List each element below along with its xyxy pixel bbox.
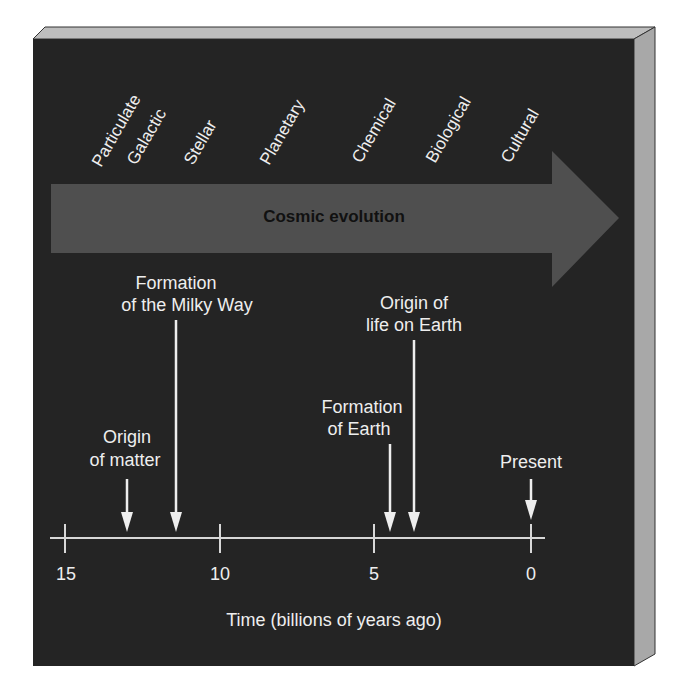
event-label-line2: of the Milky Way xyxy=(121,295,252,315)
axis-tick-label: 10 xyxy=(210,564,230,584)
event-label-line1: Present xyxy=(500,452,562,472)
event-label-line1: Origin xyxy=(103,427,151,447)
panel-top-bevel xyxy=(33,27,655,39)
event-label-line1: Formation xyxy=(321,397,402,417)
axis-tick-label: 0 xyxy=(526,564,536,584)
event-label-line1: Origin of xyxy=(380,293,449,313)
axis-tick-label: 15 xyxy=(56,564,76,584)
event-label-line2: of Earth xyxy=(327,419,390,439)
panel-side-bevel xyxy=(634,27,655,666)
axis-title: Time (billions of years ago) xyxy=(226,610,441,630)
event-label-line2: of matter xyxy=(89,450,160,470)
cosmic-evolution-diagram: Cosmic evolution Particulate Galactic St… xyxy=(0,0,676,696)
event-label-line2: life on Earth xyxy=(366,315,462,335)
axis-tick-label: 5 xyxy=(369,564,379,584)
arrow-label: Cosmic evolution xyxy=(263,207,405,226)
event-label-line1: Formation xyxy=(135,273,216,293)
